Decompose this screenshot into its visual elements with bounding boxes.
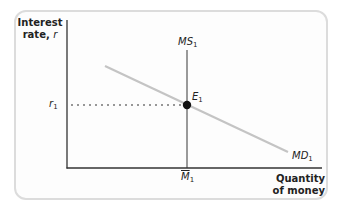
equilibrium-point: [183, 101, 191, 109]
money-supply-label: MS1: [178, 36, 197, 49]
y-axis-title-line1: Interest: [16, 17, 64, 29]
y-axis-title-line2: rate, r: [16, 29, 64, 41]
money-demand-label: MD1: [292, 150, 313, 163]
e-label-subscript: 1: [198, 96, 202, 104]
equilibrium-label: E1: [192, 91, 203, 104]
m-label-subscript: 1: [190, 176, 194, 184]
y-axis-title: Interest rate, r: [16, 17, 64, 41]
x-axis-title-line2: of money: [273, 185, 325, 197]
x-axis-title-line1: Quantity: [273, 173, 325, 185]
m-label-text: M: [181, 171, 190, 182]
ms-label-subscript: 1: [193, 41, 197, 49]
y-axis-title-text: rate,: [23, 29, 54, 40]
money-demand-curve: [105, 66, 288, 152]
r-label-subscript: 1: [53, 103, 57, 111]
md-label-text: MD: [292, 150, 308, 161]
x-axis-title: Quantity of money: [273, 173, 325, 197]
ms-label-text: MS: [178, 36, 193, 47]
y-axis-variable: r: [53, 29, 57, 40]
interest-rate-tick-label: r1: [49, 98, 58, 111]
md-label-subscript: 1: [308, 155, 312, 163]
money-quantity-tick-label: M1: [181, 171, 194, 184]
